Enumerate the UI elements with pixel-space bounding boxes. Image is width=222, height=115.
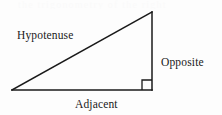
hypotenuse-side-line <box>12 12 152 90</box>
right-triangle-figure: the trigonometry of the right Hypotenuse… <box>0 0 222 115</box>
right-angle-square-icon <box>142 80 152 90</box>
hypotenuse-label: Hypotenuse <box>17 29 73 41</box>
opposite-label: Opposite <box>161 56 204 68</box>
adjacent-label: Adjacent <box>75 98 118 110</box>
